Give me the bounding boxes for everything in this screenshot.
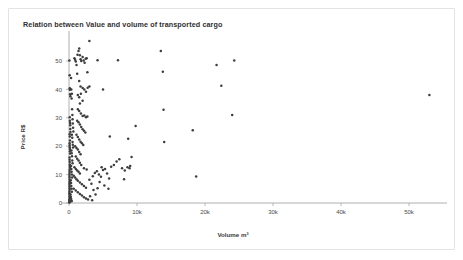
data-point [71,162,74,165]
data-point [68,59,71,62]
data-point [71,108,74,111]
data-point [71,141,74,144]
data-point [72,130,75,133]
data-point [81,194,84,197]
data-point [70,200,73,203]
data-point [70,171,73,174]
data-point [117,59,120,62]
data-point [233,59,236,62]
data-point [72,126,75,128]
data-point [104,168,107,171]
data-point [108,177,111,180]
x-tick-label: 30k [268,209,279,215]
data-point [84,131,87,134]
data-point [85,168,88,171]
data-point [87,198,90,201]
data-point [83,185,86,188]
data-point [70,188,73,191]
data-point [215,64,218,66]
data-point [79,161,82,164]
data-point [71,134,74,137]
data-point [113,164,116,167]
data-point [92,175,95,178]
x-axis: 010k20k30k40k50k [61,203,447,215]
data-point [107,188,110,191]
data-point [70,77,73,80]
data-point [71,114,74,117]
data-point [86,115,89,118]
data-point [98,181,101,184]
data-point [100,176,103,179]
data-point [121,167,124,170]
data-point [70,179,73,182]
x-tick-label: 50k [404,209,415,215]
data-point [195,175,198,178]
data-point [90,182,93,185]
y-axis: 01020304050 [55,31,69,206]
data-point [75,60,78,63]
x-tick-label: 10k [132,209,143,215]
data-point [68,201,71,204]
data-point [109,135,112,138]
y-tick-label: 10 [55,172,62,178]
plot-svg: 01020304050 010k20k30k40k50k Price R$ Vo… [9,9,456,251]
data-point [85,57,88,60]
data-point [162,71,165,74]
data-point [78,151,81,154]
data-point [103,184,106,187]
data-point [70,97,73,100]
data-point [69,124,72,127]
data-point [68,74,71,77]
data-point [68,161,71,164]
data-point [71,159,74,162]
data-point [81,183,84,186]
data-point [88,178,91,181]
data-point [71,155,74,158]
data-point [89,195,92,198]
data-point [129,165,132,168]
data-point [71,92,74,95]
data-point [96,59,99,62]
data-point [79,181,82,184]
data-point [115,160,118,163]
x-tick-label: 0 [67,209,71,215]
data-point [68,156,71,159]
data-point [81,56,84,59]
data-point [69,131,72,134]
data-point [80,112,83,115]
data-point [88,85,91,88]
data-point [80,126,83,129]
data-point [70,152,73,155]
data-point [106,172,109,175]
data-point [72,122,75,125]
data-point [82,59,85,62]
data-point [160,50,163,53]
data-point [96,170,99,173]
data-point [77,50,80,53]
data-point [83,61,86,64]
data-point [130,156,133,159]
data-point [80,164,83,167]
data-point [102,88,105,91]
data-point [78,96,81,99]
data-point [79,123,82,126]
data-point [78,80,81,83]
data-point [79,85,82,88]
data-point [69,122,72,125]
y-tick-label: 50 [55,58,62,64]
data-point [82,144,85,147]
data-point [68,133,71,136]
data-point [192,129,195,132]
data-point [118,158,121,161]
data-point [72,144,75,147]
data-point [73,188,76,191]
data-point [83,167,86,170]
data-point [70,88,73,91]
data-point [77,159,80,162]
data-point [80,92,83,95]
data-point [94,172,97,175]
data-point [96,187,99,190]
data-point [77,121,80,124]
data-point [163,141,166,144]
data-point [71,190,74,193]
